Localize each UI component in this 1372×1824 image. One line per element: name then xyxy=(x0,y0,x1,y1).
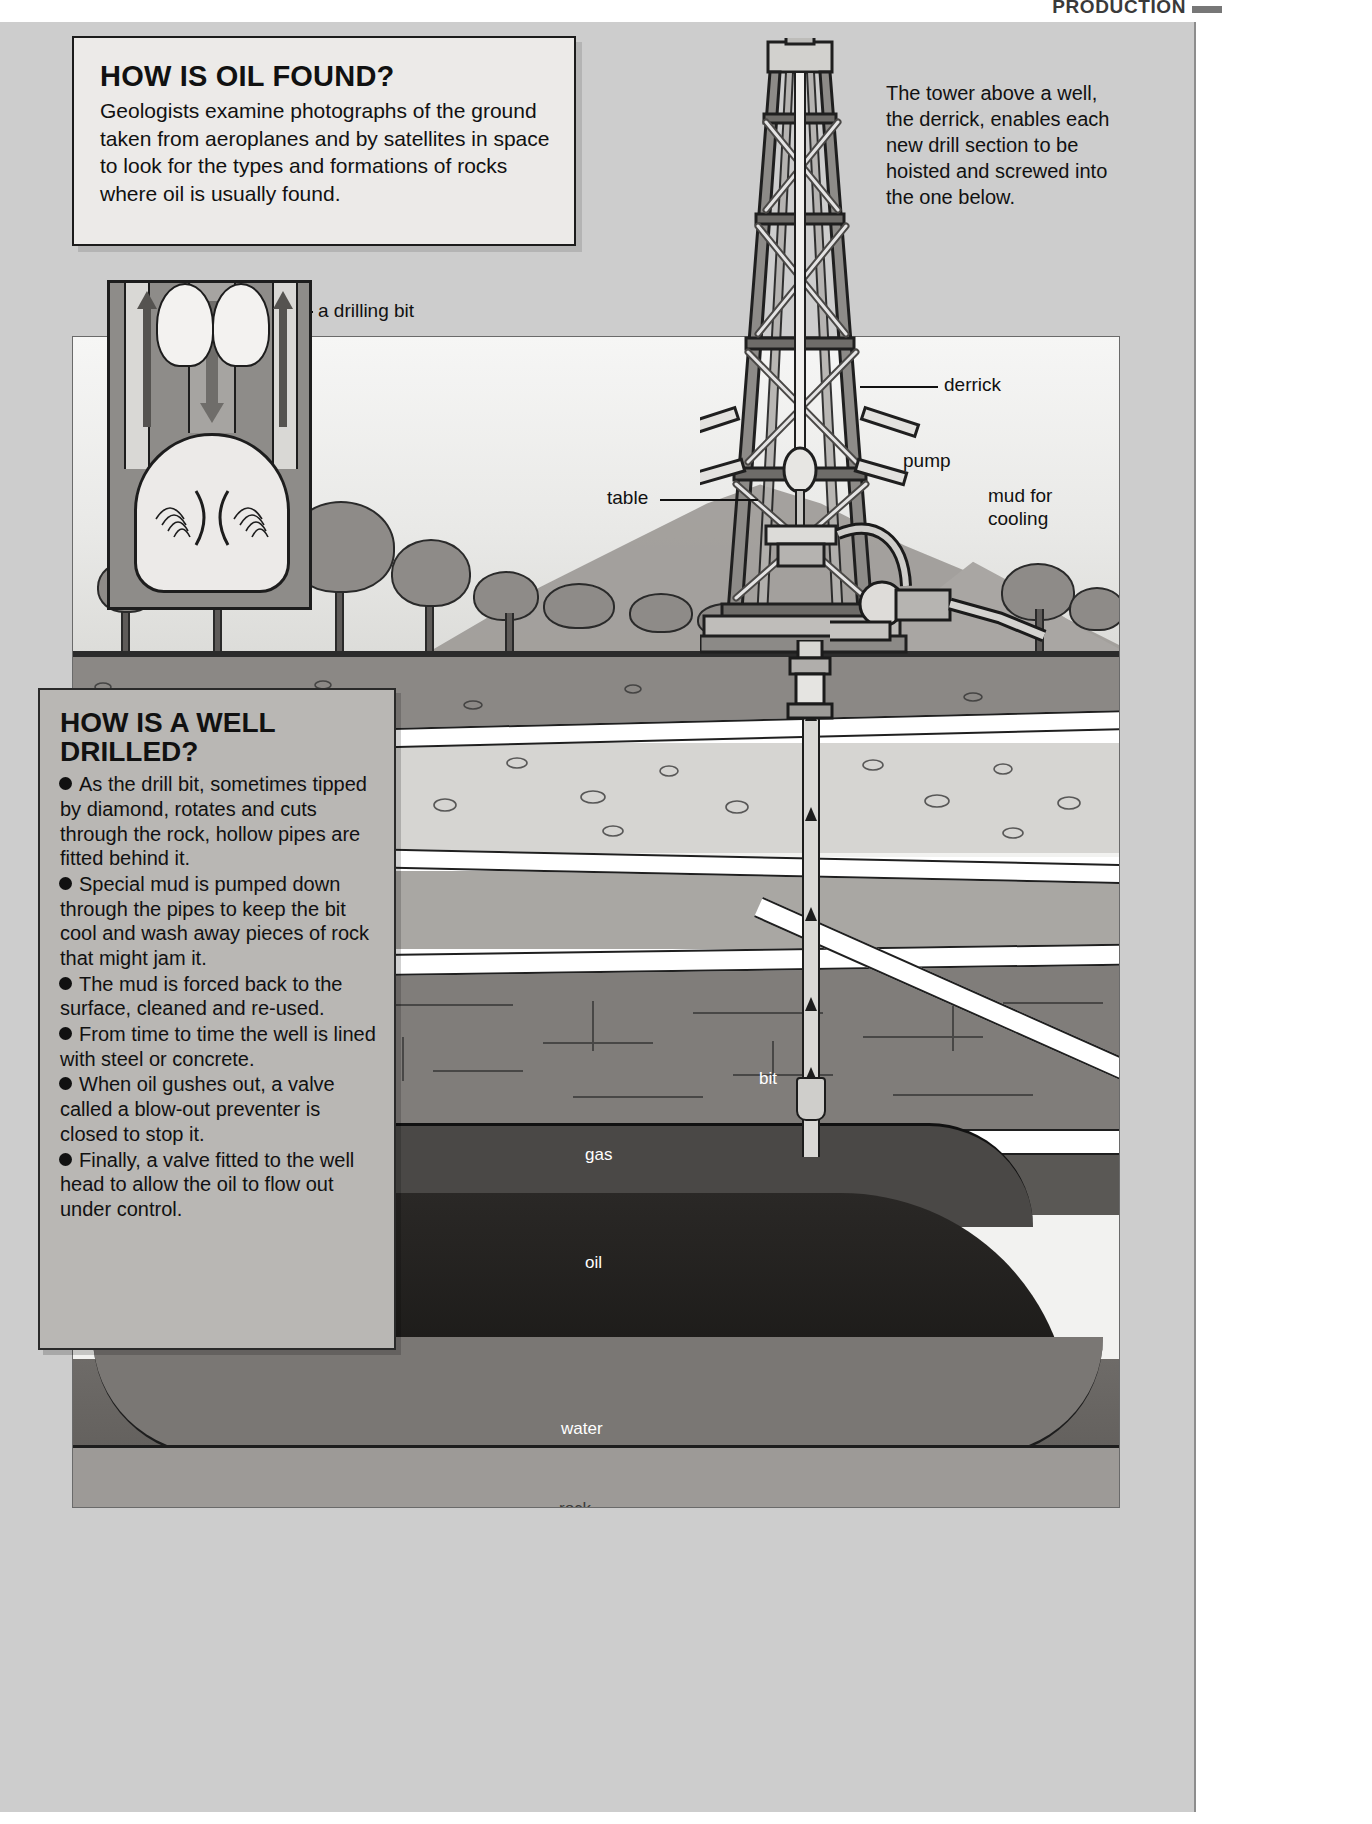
bullet-text: Special mud is pumped down through the p… xyxy=(60,873,369,969)
bullet-dot-icon xyxy=(59,977,72,990)
bullet-text: The mud is forced back to the surface, c… xyxy=(60,973,342,1020)
bedrock-layer xyxy=(73,1445,1119,1508)
well-drilled-bullet-list: As the drill bit, sometimes tipped by di… xyxy=(60,772,378,1221)
list-item: From time to time the well is lined with… xyxy=(60,1022,378,1071)
bullet-dot-icon xyxy=(59,777,72,790)
list-item: Special mud is pumped down through the p… xyxy=(60,872,378,971)
bullet-text: As the drill bit, sometimes tipped by di… xyxy=(60,773,367,869)
label-water: water xyxy=(561,1419,603,1439)
bullet-text: When oil gushes out, a valve called a bl… xyxy=(60,1073,335,1144)
page-margin-right xyxy=(1196,0,1372,1824)
running-head: PRODUCTION xyxy=(1052,0,1186,18)
callout-mud-for-cooling: mud for cooling xyxy=(988,484,1052,530)
label-oil: oil xyxy=(585,1253,602,1273)
well-drilled-title: HOW IS A WELL DRILLED? xyxy=(60,708,378,766)
callout-mud-line2: cooling xyxy=(988,508,1048,529)
list-item: When oil gushes out, a valve called a bl… xyxy=(60,1072,378,1146)
list-item: Finally, a valve fitted to the well head… xyxy=(60,1148,378,1222)
oil-found-title: HOW IS OIL FOUND? xyxy=(100,60,552,93)
bullet-dot-icon xyxy=(59,1077,72,1090)
info-box-how-is-oil-found: HOW IS OIL FOUND? Geologists examine pho… xyxy=(72,36,576,246)
page-root: PRODUCTION xyxy=(0,0,1372,1824)
water-basin xyxy=(93,1337,1103,1457)
callout-table: table xyxy=(607,487,648,509)
oil-found-body: Geologists examine photographs of the gr… xyxy=(100,97,552,207)
leader-derrick xyxy=(860,386,938,388)
label-bit: bit xyxy=(759,1069,777,1089)
list-item: As the drill bit, sometimes tipped by di… xyxy=(60,772,378,871)
note-derrick-description: The tower above a well, the derrick, ena… xyxy=(886,80,1126,210)
bullet-text: From time to time the well is lined with… xyxy=(60,1023,376,1070)
callout-derrick: derrick xyxy=(944,374,1001,396)
bullet-text: Finally, a valve fitted to the well head… xyxy=(60,1149,354,1220)
info-box-how-is-a-well-drilled: HOW IS A WELL DRILLED? As the drill bit,… xyxy=(38,688,396,1350)
well-drilled-title-line2: DRILLED? xyxy=(60,736,198,767)
bullet-dot-icon xyxy=(59,1153,72,1166)
well-drilled-title-line1: HOW IS A WELL xyxy=(60,707,276,738)
callout-pump: pump xyxy=(903,450,951,472)
label-gas: gas xyxy=(585,1145,612,1165)
running-head-rule xyxy=(1192,6,1222,13)
label-rock: rock xyxy=(559,1499,591,1508)
bullet-dot-icon xyxy=(59,877,72,890)
callout-mud-line1: mud for xyxy=(988,485,1052,506)
list-item: The mud is forced back to the surface, c… xyxy=(60,972,378,1021)
callout-drilling-bit: a drilling bit xyxy=(318,300,414,322)
bullet-dot-icon xyxy=(59,1027,72,1040)
drilling-bit-inset xyxy=(107,280,312,610)
drill-bit-in-bore xyxy=(796,1077,826,1121)
leader-table xyxy=(660,499,758,501)
